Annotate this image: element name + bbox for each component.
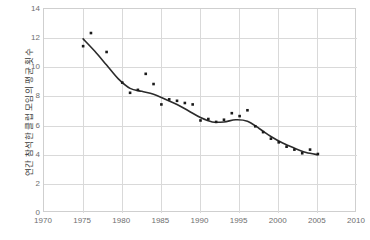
x-tick-1995: 1995 <box>219 216 259 225</box>
x-tick-1985: 1985 <box>140 216 180 225</box>
x-tick-2010: 2010 <box>336 216 370 225</box>
x-tick-1990: 1990 <box>180 216 220 225</box>
x-tick-2000: 2000 <box>258 216 298 225</box>
gridlines <box>44 9 357 213</box>
plot-area <box>43 8 356 212</box>
x-tick-1975: 1975 <box>62 216 102 225</box>
x-tick-2005: 2005 <box>297 216 337 225</box>
chart-figure: 연간 참석한 클럽 모임의 평균 횟수 02468101214 19701975… <box>0 0 370 240</box>
x-tick-1970: 1970 <box>23 216 63 225</box>
chart-canvas <box>44 9 357 213</box>
x-tick-1980: 1980 <box>101 216 141 225</box>
